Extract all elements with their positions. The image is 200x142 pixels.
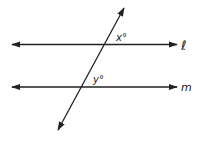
diagram-canvas: x° y° ℓ m: [0, 0, 200, 142]
line-l-label: ℓ: [180, 38, 186, 53]
parallel-lines-diagram: x° y° ℓ m: [0, 0, 200, 142]
transversal: [58, 8, 124, 130]
angle-x-label: x°: [115, 32, 127, 43]
line-m-label: m: [181, 81, 192, 94]
angle-y-label: y°: [92, 74, 104, 85]
